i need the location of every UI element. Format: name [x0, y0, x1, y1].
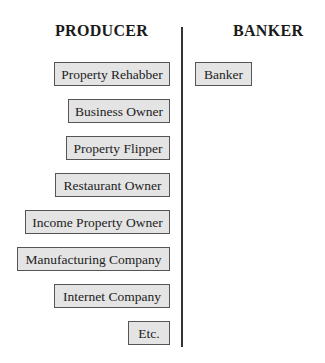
producer-item-restaurant-owner: Restaurant Owner	[55, 173, 170, 197]
producer-item-income-property-owner: Income Property Owner	[25, 210, 170, 234]
producer-item-internet-company: Internet Company	[54, 284, 170, 308]
banker-item-banker: Banker	[195, 62, 252, 86]
producer-heading: PRODUCER	[55, 22, 148, 40]
producer-item-etc: Etc.	[128, 321, 170, 345]
banker-heading: BANKER	[233, 22, 303, 40]
producer-item-property-rehabber: Property Rehabber	[54, 62, 170, 86]
producer-item-manufacturing-company: Manufacturing Company	[17, 247, 170, 271]
producer-item-property-flipper: Property Flipper	[66, 136, 170, 160]
producer-item-business-owner: Business Owner	[68, 99, 170, 123]
column-divider	[181, 27, 183, 347]
